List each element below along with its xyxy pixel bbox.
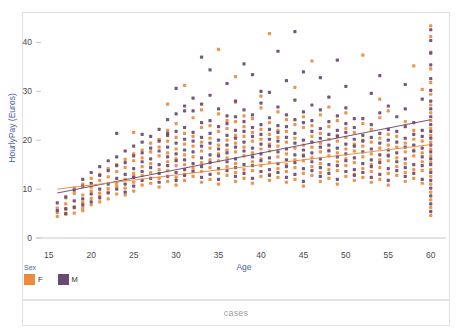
data-point bbox=[175, 142, 178, 145]
data-point bbox=[310, 130, 313, 133]
data-point bbox=[412, 149, 415, 152]
data-point bbox=[242, 172, 245, 175]
data-point bbox=[81, 178, 84, 181]
data-point bbox=[208, 94, 211, 97]
data-point bbox=[115, 185, 118, 188]
legend-item-f[interactable]: F bbox=[24, 274, 43, 285]
data-point bbox=[225, 160, 228, 163]
data-point bbox=[166, 129, 169, 132]
data-point bbox=[107, 197, 110, 200]
data-point bbox=[259, 101, 262, 104]
data-point bbox=[319, 76, 322, 79]
data-point bbox=[166, 140, 169, 143]
data-point bbox=[175, 184, 178, 187]
data-point bbox=[429, 190, 432, 193]
data-point bbox=[370, 181, 373, 184]
data-point bbox=[353, 161, 356, 164]
data-point bbox=[293, 153, 296, 156]
data-point bbox=[276, 150, 279, 153]
legend-swatch-m bbox=[58, 274, 69, 285]
data-point bbox=[336, 183, 339, 186]
data-point bbox=[234, 175, 237, 178]
data-point bbox=[107, 169, 110, 172]
data-point bbox=[217, 178, 220, 181]
data-point bbox=[200, 176, 203, 179]
data-point bbox=[183, 109, 186, 112]
data-point bbox=[421, 164, 424, 167]
data-point bbox=[98, 191, 101, 194]
data-point bbox=[353, 168, 356, 171]
data-point bbox=[395, 115, 398, 118]
data-point bbox=[124, 166, 127, 169]
data-point bbox=[268, 156, 271, 159]
data-point bbox=[276, 167, 279, 170]
data-point bbox=[242, 141, 245, 144]
data-point bbox=[208, 68, 211, 71]
data-point bbox=[353, 174, 356, 177]
data-point bbox=[429, 183, 432, 186]
data-point bbox=[217, 183, 220, 186]
data-point bbox=[378, 137, 381, 140]
legend-item-m[interactable]: M bbox=[58, 274, 78, 285]
data-point bbox=[370, 152, 373, 155]
data-point bbox=[217, 172, 220, 175]
data-point bbox=[200, 102, 203, 105]
data-point bbox=[421, 169, 424, 172]
data-point bbox=[183, 143, 186, 146]
data-point bbox=[166, 180, 169, 183]
chart-screenshot: 01020304015202530354045505560AgeHourlyPa… bbox=[0, 0, 466, 336]
data-point bbox=[225, 151, 228, 154]
data-point bbox=[361, 162, 364, 165]
data-point bbox=[200, 156, 203, 159]
data-point bbox=[344, 106, 347, 109]
data-point bbox=[251, 146, 254, 149]
data-point bbox=[183, 132, 186, 135]
data-point bbox=[378, 98, 381, 101]
data-point bbox=[429, 171, 432, 174]
data-point bbox=[429, 89, 432, 92]
data-point bbox=[361, 134, 364, 137]
x-tick-label-25: 25 bbox=[129, 250, 139, 260]
data-point bbox=[115, 164, 118, 167]
data-point bbox=[370, 141, 373, 144]
data-point bbox=[395, 130, 398, 133]
data-point bbox=[327, 105, 330, 108]
data-point bbox=[319, 145, 322, 148]
data-point bbox=[200, 136, 203, 139]
data-point bbox=[285, 152, 288, 155]
data-point bbox=[336, 58, 339, 61]
data-point bbox=[259, 175, 262, 178]
data-point bbox=[64, 207, 67, 210]
data-point bbox=[285, 118, 288, 121]
data-point bbox=[251, 126, 254, 129]
data-point bbox=[73, 192, 76, 195]
data-point bbox=[285, 113, 288, 116]
data-point bbox=[158, 181, 161, 184]
data-point bbox=[310, 124, 313, 127]
data-point bbox=[217, 48, 220, 51]
data-point bbox=[429, 141, 432, 144]
data-point bbox=[285, 170, 288, 173]
y-tick-label-40: 40 bbox=[23, 37, 33, 47]
data-point bbox=[234, 145, 237, 148]
data-point bbox=[429, 107, 432, 110]
data-point bbox=[412, 168, 415, 171]
data-point bbox=[234, 171, 237, 174]
data-point bbox=[412, 64, 415, 67]
data-point bbox=[421, 160, 424, 163]
data-point bbox=[302, 110, 305, 113]
data-point bbox=[378, 146, 381, 149]
data-point bbox=[429, 157, 432, 160]
data-point bbox=[336, 178, 339, 181]
data-point bbox=[276, 171, 279, 174]
data-point bbox=[200, 126, 203, 129]
data-point bbox=[353, 179, 356, 182]
data-point bbox=[242, 145, 245, 148]
data-point bbox=[242, 168, 245, 171]
data-point bbox=[64, 195, 67, 198]
data-point bbox=[200, 165, 203, 168]
data-point bbox=[124, 161, 127, 164]
data-point bbox=[141, 148, 144, 151]
data-point bbox=[429, 168, 432, 171]
data-point bbox=[73, 211, 76, 214]
